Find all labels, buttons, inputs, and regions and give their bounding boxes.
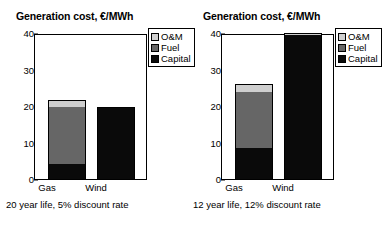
plot-area-right [221,34,334,180]
panel-caption-right: 12 year life, 12% discount rate [193,199,321,210]
y-axis-labels-left: 40 30 20 10 0 [8,0,34,228]
panel-caption-left: 20 year life, 5% discount rate [6,199,129,210]
legend-label-oam: O&M [348,32,370,42]
legend-label-fuel: Fuel [161,43,179,53]
legend-label-fuel: Fuel [348,43,366,53]
bar-segment-capital [48,164,86,179]
bar-gas [235,84,273,179]
bar-segment-capital [97,108,135,179]
legend-item-fuel: Fuel [151,42,191,53]
bar-segment-capital [235,148,273,179]
legend-item-fuel: Fuel [338,42,378,53]
legend-item-oam: O&M [338,31,378,42]
bar-gas [48,100,86,179]
legend-item-capital: Capital [151,53,191,64]
y-axis-labels-right: 40 30 20 10 0 [195,0,221,228]
bar-segment-fuel [235,92,273,148]
legend-swatch-capital-icon [151,55,159,63]
x-tick-label-gas: Gas [209,182,259,193]
legend-label-oam: O&M [161,32,183,42]
x-tick-label-gas: Gas [22,182,72,193]
legend-item-oam: O&M [151,31,191,42]
y-tick-label-30: 30 [201,66,221,76]
legend-swatch-oam-icon [338,33,346,41]
bar-segment-fuel [48,107,86,164]
y-tick-label-10: 10 [14,139,34,149]
bar-segment-capital [284,35,322,179]
y-tick-label-10: 10 [201,139,221,149]
legend-right: O&M Fuel Capital [335,28,382,67]
legend-swatch-capital-icon [338,55,346,63]
legend-swatch-fuel-icon [338,44,346,52]
x-tick-label-wind: Wind [71,182,121,193]
y-tick-label-30: 30 [14,66,34,76]
y-tick-label-40: 40 [201,29,221,39]
legend-item-capital: Capital [338,53,378,64]
plot-area-left [34,34,147,180]
chart-panel-right: Generation cost, €/MWh 40 30 20 10 0 [187,0,374,228]
bar-wind [284,33,322,179]
bar-segment-oam [235,84,273,92]
y-tick-label-40: 40 [14,29,34,39]
legend-swatch-fuel-icon [151,44,159,52]
y-tick-label-20: 20 [201,102,221,112]
bar-wind [97,107,135,179]
legend-label-capital: Capital [348,54,378,64]
y-tick-label-20: 20 [14,102,34,112]
legend-swatch-oam-icon [151,33,159,41]
chart-panel-left: Generation cost, €/MWh 40 30 20 10 0 [0,0,187,228]
bar-segment-oam [48,100,86,107]
x-tick-label-wind: Wind [258,182,308,193]
